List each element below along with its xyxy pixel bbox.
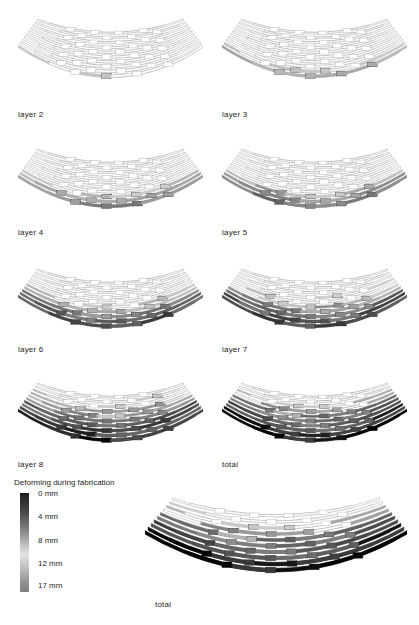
slat-node [212, 519, 222, 524]
slat-node [349, 542, 359, 547]
slat-node [57, 61, 67, 66]
legend: Deforming during fabrication 0 mm4 mm8 m… [14, 478, 115, 593]
slat-node [117, 69, 127, 74]
slat-node [321, 433, 331, 438]
slat-node [285, 525, 295, 530]
slat-node [336, 201, 346, 206]
slat-node [87, 318, 97, 323]
slat-node [266, 555, 276, 560]
slat-node [247, 536, 257, 541]
slat-node [291, 432, 301, 437]
slat-node [246, 548, 256, 553]
slat-node [306, 438, 316, 443]
slat-node [321, 521, 331, 526]
slat-node [71, 70, 81, 75]
panel-layer-3 [222, 8, 407, 108]
slat-node [275, 70, 285, 75]
slat-node [229, 528, 239, 533]
slat-node [275, 434, 285, 439]
slat-node [132, 201, 142, 206]
slat-node [306, 541, 316, 546]
panel-label-layer-8: layer 8 [18, 460, 43, 469]
legend-gradient-bar [20, 493, 29, 592]
legend-body: 0 mm4 mm8 mm12 mm17 mm [14, 493, 115, 593]
panel-layer-5 [222, 138, 407, 238]
slat-node [102, 204, 112, 209]
slat-node [336, 321, 346, 326]
slat-node [132, 71, 142, 76]
slat-node [351, 193, 361, 198]
slat-node [306, 324, 316, 329]
slat-node [321, 319, 331, 324]
slat-node [291, 68, 301, 73]
slat-node [249, 513, 259, 517]
panel-layer-8 [18, 372, 203, 472]
panel-label-layer-6: layer 6 [18, 345, 43, 354]
lattice-drawing [222, 8, 407, 108]
slat-node [87, 432, 97, 437]
slat-node [285, 537, 295, 542]
panel-label-layer-5: layer 5 [222, 228, 247, 237]
slat-node [327, 543, 337, 548]
slat-node [224, 551, 234, 556]
slat-node [71, 434, 81, 439]
slat-node [163, 192, 173, 197]
slat-node [275, 320, 285, 325]
legend-tick-2: 8 mm [38, 536, 58, 545]
slat-node [336, 71, 346, 76]
lattice-drawing [222, 258, 407, 358]
slat-node [117, 199, 127, 204]
slat-node [163, 312, 173, 317]
slat-node [163, 62, 173, 67]
slat-node [345, 532, 355, 537]
slat-node [351, 63, 361, 68]
slat-node [304, 529, 314, 534]
lattice-drawing [145, 484, 407, 610]
legend-title: Deforming during fabrication [14, 478, 115, 487]
slat-node [330, 554, 340, 560]
lattice-drawing [18, 8, 203, 108]
panel-layer-2 [18, 8, 203, 108]
slat-node [367, 62, 377, 67]
slat-node [309, 564, 319, 570]
panel-label-layer-7: layer 7 [222, 345, 247, 354]
slat-node [87, 198, 97, 203]
slat-node [261, 311, 271, 316]
slat-node [275, 200, 285, 205]
slat-node [147, 427, 157, 432]
slat-node [367, 426, 377, 431]
slat-node [248, 525, 258, 530]
slat-node [367, 192, 377, 197]
slat-node [261, 191, 271, 196]
lattice-drawing [18, 372, 203, 472]
slat-node [57, 311, 67, 316]
slat-node [102, 438, 112, 443]
panel-total-large [145, 484, 407, 610]
panel-label-layer-3: layer 3 [222, 110, 247, 119]
slat-node [261, 61, 271, 66]
slat-node [318, 510, 328, 514]
slat-node [57, 425, 67, 430]
panel-layer-4 [18, 138, 203, 238]
slat-node [87, 68, 97, 73]
slat-node [215, 509, 225, 513]
slat-node [132, 321, 142, 326]
panel-layer-6 [18, 258, 203, 358]
slat-node [307, 553, 317, 558]
slat-node [71, 200, 81, 205]
slat-node [102, 74, 112, 79]
slat-node [147, 63, 157, 68]
slat-node [102, 324, 112, 329]
slat-node [351, 313, 361, 318]
slat-node [341, 522, 351, 527]
slat-node [147, 193, 157, 198]
lattice-drawing [222, 138, 407, 238]
slat-node [147, 313, 157, 318]
slat-node [266, 543, 276, 548]
slat-node [267, 520, 277, 525]
slat-node [266, 567, 276, 573]
slat-node [306, 74, 316, 79]
slat-node [336, 435, 346, 440]
lattice-drawing [18, 138, 203, 238]
slat-node [321, 69, 331, 74]
